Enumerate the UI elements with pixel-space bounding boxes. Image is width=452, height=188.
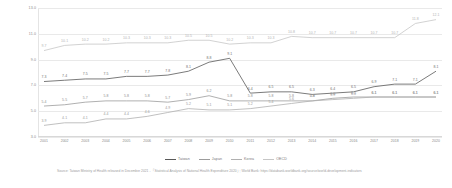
point-label: 10.5 (206, 34, 213, 38)
point-label: 10.2 (102, 38, 109, 42)
x-axis-tick-label: 2002 (61, 139, 69, 143)
point-label: 3.9 (41, 119, 46, 123)
point-label: 7.7 (145, 70, 150, 74)
point-label: 4.1 (83, 117, 88, 121)
point-label: 9.1 (227, 52, 232, 56)
point-label: 8.1 (186, 65, 191, 69)
x-axis-tick-label: 2010 (226, 139, 234, 143)
y-axis-tick-label: 9.0 (20, 58, 36, 62)
y-axis-tick-label: 11.0 (20, 32, 36, 36)
point-label: 5.2 (186, 103, 191, 107)
point-label: 10.2 (226, 38, 233, 42)
source-note: Source: Taiwan Ministry of Health releas… (57, 168, 449, 173)
legend-swatch (231, 159, 242, 160)
point-label: 6.5 (351, 86, 356, 90)
point-label: 5.8 (268, 95, 273, 99)
point-label: 5.9 (186, 94, 191, 98)
x-axis-tick-label: 2007 (164, 139, 172, 143)
plot-area: 3.05.07.09.011.013.0 7.37.47.57.57.77.77… (38, 8, 442, 137)
point-label: 5.6 (289, 97, 294, 101)
point-label: 5.8 (248, 95, 253, 99)
legend-swatch (165, 159, 176, 160)
point-label: 6.4 (248, 87, 253, 91)
point-label: 10.3 (164, 37, 171, 41)
point-label: 5.2 (248, 103, 253, 107)
chart-legend: TaiwanJapanKoreaOECD (0, 154, 452, 164)
point-label: 6.5 (268, 86, 273, 90)
point-label: 9.7 (41, 45, 46, 49)
x-axis-tick-label: 2009 (205, 139, 213, 143)
point-label: 7.4 (62, 74, 67, 78)
x-axis-tick-label: 2005 (123, 139, 131, 143)
point-label: 6.1 (433, 91, 438, 95)
point-label: 5.8 (310, 95, 315, 99)
point-label: 10.3 (123, 37, 130, 41)
x-axis-ticks: 2001200220032004200520062007200820092010… (38, 139, 442, 149)
legend-swatch (199, 159, 210, 160)
point-label: 10.7 (371, 32, 378, 36)
point-label: 6.9 (372, 81, 377, 85)
x-axis-tick-label: 2001 (40, 139, 48, 143)
point-label: 6.0 (351, 92, 356, 96)
point-label: 8.8 (207, 56, 212, 60)
legend-label: OECD (276, 157, 287, 161)
point-label: 10.7 (309, 32, 316, 36)
x-axis-tick-label: 2003 (81, 139, 89, 143)
point-label: 10.8 (288, 30, 295, 34)
legend-item-oecd[interactable]: OECD (263, 157, 287, 161)
point-label: 10.1 (61, 39, 68, 43)
point-label: 6.2 (207, 90, 212, 94)
point-label: 7.5 (83, 73, 88, 77)
point-label: 6.3 (310, 88, 315, 92)
x-axis-tick-label: 2018 (391, 139, 399, 143)
y-axis-tick-label: 3.0 (20, 135, 36, 139)
legend-item-taiwan[interactable]: Taiwan (165, 157, 190, 161)
point-label: 5.7 (165, 96, 170, 100)
point-label: 11.8 (412, 17, 419, 21)
x-axis-tick-label: 2015 (329, 139, 337, 143)
x-axis-tick-label: 2011 (247, 139, 255, 143)
gridline (38, 137, 442, 138)
x-axis-tick-label: 2014 (308, 139, 316, 143)
x-axis-tick-label: 2008 (185, 139, 193, 143)
point-label: 5.4 (268, 100, 273, 104)
point-label: 4.4 (124, 113, 129, 117)
x-axis-tick-label: 2016 (350, 139, 358, 143)
point-label: 5.4 (41, 100, 46, 104)
legend-label: Korea (244, 157, 254, 161)
chart-screenshot: 3.05.07.09.011.013.0 7.37.47.57.57.77.77… (0, 0, 452, 188)
point-label: 10.7 (391, 32, 398, 36)
legend-swatch (263, 159, 274, 160)
legend-item-japan[interactable]: Japan (199, 157, 222, 161)
point-label: 5.1 (227, 104, 232, 108)
point-label: 10.3 (247, 37, 254, 41)
point-label: 8.1 (433, 65, 438, 69)
y-axis-tick-label: 5.0 (20, 109, 36, 113)
series-lines (38, 8, 442, 137)
point-label: 7.1 (392, 78, 397, 82)
point-label: 10.5 (185, 34, 192, 38)
point-label: 5.7 (83, 96, 88, 100)
point-label: 10.7 (329, 32, 336, 36)
point-label: 6.1 (413, 91, 418, 95)
point-label: 5.9 (330, 94, 335, 98)
x-axis-tick-label: 2019 (411, 139, 419, 143)
point-label: 10.3 (267, 37, 274, 41)
point-label: 6.1 (372, 91, 377, 95)
x-axis-tick-label: 2020 (432, 139, 440, 143)
point-label: 5.8 (227, 95, 232, 99)
point-label: 5.8 (145, 95, 150, 99)
point-label: 6.5 (289, 86, 294, 90)
point-label: 5.5 (62, 99, 67, 103)
point-label: 7.1 (413, 78, 418, 82)
point-label: 7.7 (124, 70, 129, 74)
point-label: 4.9 (165, 106, 170, 110)
point-label: 5.8 (103, 95, 108, 99)
x-axis-tick-label: 2017 (370, 139, 378, 143)
point-label: 4.1 (62, 117, 67, 121)
point-label: 4.4 (103, 113, 108, 117)
point-label: 7.3 (41, 76, 46, 80)
point-label: 7.5 (103, 73, 108, 77)
legend-item-korea[interactable]: Korea (231, 157, 254, 161)
x-axis-tick-label: 2012 (267, 139, 275, 143)
